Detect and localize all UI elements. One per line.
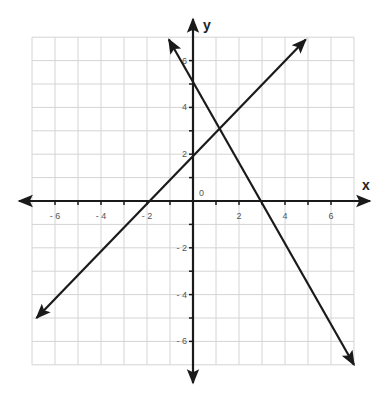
x-tick-label: 6 bbox=[328, 211, 333, 221]
coordinate-plane: - 6- 4- 2246- 6- 4- 2246 x y 0 bbox=[0, 0, 388, 396]
x-tick-label: - 6 bbox=[50, 211, 61, 221]
x-tick-label: - 4 bbox=[96, 211, 107, 221]
y-tick-label: - 4 bbox=[176, 290, 187, 300]
x-tick-label: 2 bbox=[236, 211, 241, 221]
y-tick-label: 4 bbox=[182, 102, 187, 112]
origin-label: 0 bbox=[199, 188, 204, 198]
y-tick-label: - 6 bbox=[176, 336, 187, 346]
x-tick-label: 4 bbox=[282, 211, 287, 221]
line-increasing bbox=[37, 40, 306, 318]
line-decreasing bbox=[169, 40, 354, 365]
y-tick-label: - 2 bbox=[176, 243, 187, 253]
y-tick-label: 2 bbox=[182, 149, 187, 159]
axes bbox=[19, 19, 370, 383]
x-tick-label: - 2 bbox=[142, 211, 153, 221]
y-axis-label: y bbox=[203, 17, 211, 33]
x-axis-label: x bbox=[362, 177, 370, 193]
plotted-lines bbox=[37, 40, 354, 365]
